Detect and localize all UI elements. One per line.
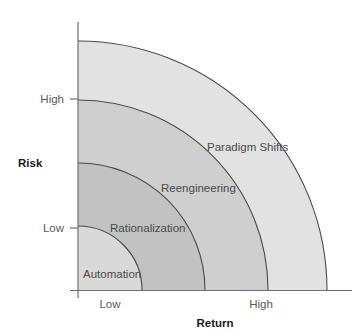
- band-label-paradigm-shifts: Paradigm Shifts: [207, 141, 288, 153]
- x-axis-title: Return: [196, 317, 233, 329]
- x-tick-label-low: Low: [99, 298, 121, 310]
- chart-canvas: High Low Low High Risk Return Paradigm S…: [0, 0, 357, 333]
- y-axis-title: Risk: [18, 157, 43, 169]
- band-label-automation: Automation: [83, 268, 141, 280]
- band-label-reengineering: Reengineering: [161, 182, 236, 194]
- y-tick-label-low: Low: [43, 222, 65, 234]
- risk-return-chart: High Low Low High Risk Return Paradigm S…: [0, 0, 357, 333]
- band-label-rationalization: Rationalization: [110, 222, 185, 234]
- x-tick-label-high: High: [249, 298, 273, 310]
- y-tick-label-high: High: [40, 93, 64, 105]
